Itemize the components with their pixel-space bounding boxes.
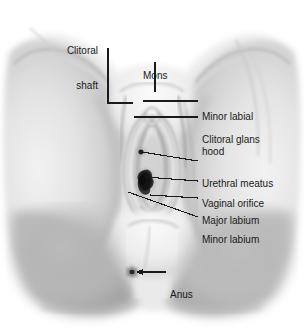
label-mons-line1: Mons bbox=[143, 70, 167, 82]
label-clitoral-shaft-line2: shaft bbox=[40, 80, 98, 92]
label-minor-labium-line1: Minor labium bbox=[202, 234, 259, 246]
anatomy-figure: Clitoral shaft Mons Minor labial hood Cl… bbox=[0, 0, 304, 330]
label-mons: Mons bbox=[143, 47, 167, 105]
label-clitoral-shaft: Clitoral shaft bbox=[40, 22, 98, 114]
label-anus: Anus bbox=[170, 266, 193, 324]
label-clitoral-glans-line1: Clitoral glans bbox=[202, 134, 260, 146]
label-clitoral-shaft-line1: Clitoral bbox=[40, 45, 98, 57]
label-anus-line1: Anus bbox=[170, 289, 193, 301]
clitoral-glans-mark bbox=[149, 117, 154, 123]
label-minor-labium: Minor labium bbox=[202, 211, 259, 269]
